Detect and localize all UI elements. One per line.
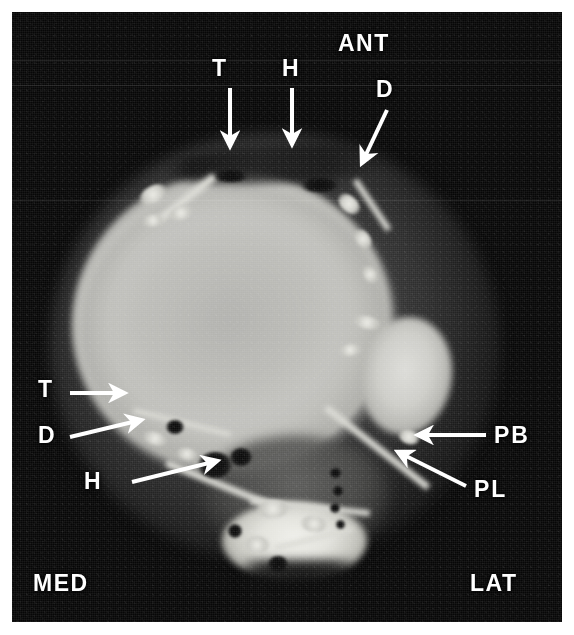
mri-figure: THDTDHPBPLANTMEDLAT (0, 0, 574, 635)
structure-label-h-left: H (84, 470, 101, 493)
structure-label-h-top: H (282, 57, 299, 80)
structure-label-pb-right: PB (494, 424, 530, 447)
arrow-pl-right (398, 452, 466, 486)
structure-label-pl-right: PL (474, 478, 507, 501)
annotation-arrows (12, 12, 562, 622)
orientation-label-ant: ANT (338, 32, 390, 55)
mri-scan-field: THDTDHPBPLANTMEDLAT (12, 12, 562, 622)
structure-label-d-top: D (376, 78, 393, 101)
arrow-d-left (70, 420, 141, 437)
orientation-label-lat: LAT (470, 572, 518, 595)
structure-label-t-top: T (212, 57, 227, 80)
arrow-h-left (132, 461, 217, 482)
arrow-d-top (362, 110, 387, 163)
orientation-label-med: MED (33, 572, 89, 595)
structure-label-d-left: D (38, 424, 55, 447)
annotation-overlay: THDTDHPBPLANTMEDLAT (12, 12, 562, 622)
structure-label-t-left: T (38, 378, 53, 401)
